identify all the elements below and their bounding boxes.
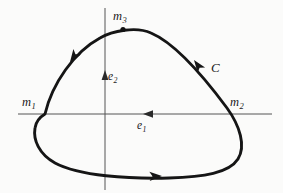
label-curve-c: C — [211, 61, 220, 74]
label-e2: e2 — [108, 71, 118, 85]
curve-direction-arrow-left-icon — [66, 49, 81, 65]
point-marker-m3 — [120, 27, 125, 32]
closed-curve-c — [35, 30, 242, 179]
label-e2-subscript: 2 — [113, 76, 117, 85]
label-e1-subscript: 1 — [142, 125, 146, 134]
figure-container: m1 m2 m3 e1 e2 C — [0, 0, 283, 193]
x-axis-arrow-icon — [143, 110, 153, 117]
label-m1: m1 — [22, 96, 36, 110]
label-m2-subscript: 2 — [239, 101, 244, 111]
label-m3-subscript: 3 — [122, 15, 127, 25]
label-m2: m2 — [230, 96, 244, 110]
label-m1-subscript: 1 — [31, 101, 36, 111]
label-m3: m3 — [113, 10, 127, 24]
label-e1: e1 — [137, 120, 147, 134]
label-m2-base: m — [230, 95, 239, 109]
label-m3-base: m — [113, 9, 122, 23]
label-m1-base: m — [22, 95, 31, 109]
